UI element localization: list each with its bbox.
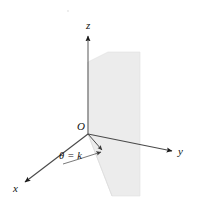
plane-equation-label: θ = k — [59, 151, 82, 162]
origin-label: O — [77, 121, 85, 132]
x-axis-label: x — [13, 183, 18, 194]
page-speck — [67, 10, 69, 12]
figure-canvas — [0, 0, 197, 205]
z-axis-label: z — [86, 20, 90, 31]
y-axis-label: y — [178, 146, 183, 157]
coordinate-axes-figure: z y x O θ = k — [0, 0, 197, 205]
theta-equals-k-plane — [88, 52, 140, 196]
